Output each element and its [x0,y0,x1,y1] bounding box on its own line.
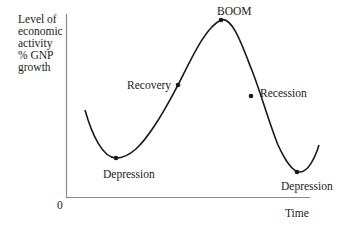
x-axis-label: Time [285,207,309,219]
y-axis-label-line: Level of [18,13,66,25]
origin-label: 0 [57,199,63,211]
depression-1-label: Depression [103,168,155,180]
recovery-marker [176,83,181,88]
y-axis-label-line: % GNP [18,49,66,61]
boom-marker [219,18,224,23]
y-axis-label-line: economic [18,25,66,37]
depression-2-marker [295,170,300,175]
recovery-label: Recovery [127,79,171,91]
recession-label: Recession [260,87,307,99]
business-cycle-diagram: Level of economic activity % GNP growth … [0,0,353,226]
recession-marker [249,94,254,99]
y-axis-label: Level of economic activity % GNP growth [18,13,66,73]
depression-1-marker [114,156,119,161]
boom-label: BOOM [217,5,252,17]
depression-2-label: Depression [281,180,333,192]
y-axis-label-line: activity [18,37,66,49]
y-axis-label-line: growth [18,61,66,73]
